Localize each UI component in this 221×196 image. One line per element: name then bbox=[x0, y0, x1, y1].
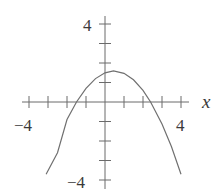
y-max-label: 4 bbox=[83, 16, 92, 35]
axes bbox=[22, 16, 189, 189]
x-max-label: 4 bbox=[176, 116, 185, 135]
parabola-curve bbox=[46, 71, 181, 174]
x-min-label: −4 bbox=[14, 116, 33, 135]
parabola-plot: 4 −4 −4 4 x bbox=[0, 0, 221, 196]
y-min-label: −4 bbox=[67, 173, 86, 192]
x-axis-name: x bbox=[201, 91, 211, 112]
